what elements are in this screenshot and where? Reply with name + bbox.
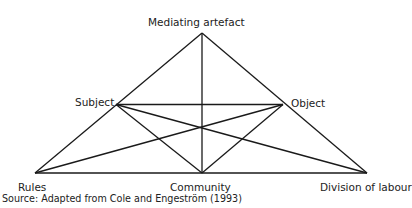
- edge-object-rules: [35, 105, 283, 174]
- label-division-of-labour: Division of labour: [320, 182, 412, 193]
- edge-apex-rules: [35, 33, 202, 173]
- label-rules: Rules: [18, 182, 46, 193]
- label-subject: Subject: [75, 97, 114, 108]
- source-note: Source: Adapted from Cole and Engeström …: [2, 193, 242, 204]
- label-mediating-artefact: Mediating artefact: [148, 17, 245, 28]
- edge-object-community: [202, 105, 283, 174]
- label-object: Object: [291, 98, 325, 109]
- label-community: Community: [170, 182, 231, 193]
